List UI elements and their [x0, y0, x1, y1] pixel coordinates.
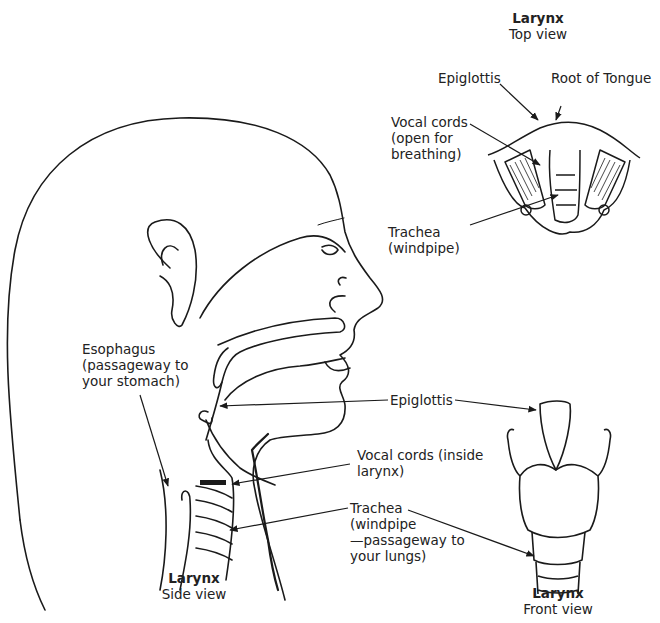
top-view-heading: Larynx: [488, 10, 588, 26]
leader-esophagus: [140, 395, 168, 486]
label-esophagus: Esophagus (passageway to your stomach): [82, 341, 188, 389]
ear: [148, 220, 197, 327]
head-outline: [7, 118, 382, 600]
leader-top-vocal-cords: [470, 124, 540, 165]
label-side-epiglottis: Epiglottis: [390, 392, 453, 408]
anatomy-illustration: [0, 0, 660, 623]
label-top-trachea: Trachea (windpipe): [388, 224, 460, 256]
larynx-front-view: [507, 401, 610, 594]
top-view-title: Larynx Top view: [488, 10, 588, 42]
label-top-epiglottis: Epiglottis: [438, 70, 501, 86]
epiglottis-side: [199, 411, 212, 423]
side-view-title: Larynx Side view: [144, 570, 244, 602]
label-side-vocal-cords: Vocal cords (inside larynx): [357, 447, 483, 479]
eye: [322, 245, 338, 254]
front-view-subtitle: Front view: [508, 601, 608, 617]
leader-side-epiglottis: [220, 400, 388, 406]
larynx-top-view: [488, 122, 640, 234]
pharynx-front: [206, 382, 222, 440]
leader-front-epiglottis: [455, 400, 536, 410]
leader-top-epiglottis: [500, 84, 538, 120]
nasal-cavity: [200, 236, 345, 318]
vocal-cords-marker: [200, 480, 226, 485]
label-top-vocal-cords: Vocal cords (open for breathing): [391, 114, 468, 162]
side-view-subtitle: Side view: [144, 586, 244, 602]
label-side-trachea: Trachea (windpipe —passageway to your lu…: [350, 500, 465, 564]
leader-side-trachea: [230, 508, 348, 530]
neck-back: [20, 520, 45, 610]
front-view-title: Larynx Front view: [508, 585, 608, 617]
label-root-of-tongue: Root of Tongue: [551, 70, 651, 86]
top-view-subtitle: Top view: [488, 26, 588, 42]
side-view-heading: Larynx: [144, 570, 244, 586]
palate: [214, 318, 345, 388]
front-view-heading: Larynx: [508, 585, 608, 601]
leader-root-tongue: [556, 106, 561, 120]
